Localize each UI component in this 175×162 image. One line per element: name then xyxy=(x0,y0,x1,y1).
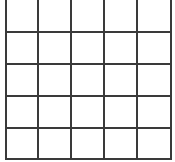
grid-cell xyxy=(105,33,136,63)
grid-horizontal-line xyxy=(5,158,172,160)
grid-cell xyxy=(39,0,70,31)
grid-cell xyxy=(7,0,37,31)
grid-cell xyxy=(72,33,103,63)
grid-cell xyxy=(7,97,37,127)
grid-cell xyxy=(105,65,136,95)
grid-cell xyxy=(105,129,136,158)
grid-cell xyxy=(72,97,103,127)
grid-vertical-line xyxy=(170,0,172,160)
grid-cell xyxy=(138,0,170,31)
grid-cell xyxy=(138,65,170,95)
grid-cell xyxy=(7,129,37,158)
grid-cell xyxy=(39,129,70,158)
grid-cell xyxy=(138,97,170,127)
grid-cell xyxy=(138,129,170,158)
grid-cell xyxy=(39,65,70,95)
grid-cell xyxy=(7,65,37,95)
grid-cell xyxy=(105,0,136,31)
grid-diagram xyxy=(0,0,175,162)
grid-cell xyxy=(72,129,103,158)
grid-cell xyxy=(72,0,103,31)
grid-cell xyxy=(138,33,170,63)
grid-cell xyxy=(72,65,103,95)
grid-cell xyxy=(39,97,70,127)
grid-cell xyxy=(105,97,136,127)
grid-cell xyxy=(7,33,37,63)
grid-cell xyxy=(39,33,70,63)
